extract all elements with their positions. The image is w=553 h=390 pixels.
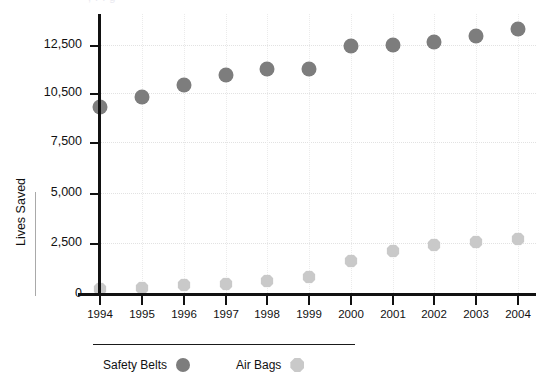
y-axis-tick-label: 7,500 <box>22 134 82 148</box>
x-axis-tick-mark <box>141 296 143 305</box>
data-point-air-bags <box>178 279 191 292</box>
x-axis-tick-label: 2003 <box>453 308 499 320</box>
x-axis-tick-label: 2002 <box>411 308 457 320</box>
x-axis-tick-label: 1997 <box>203 308 249 320</box>
y-axis-tick-label: 2,500 <box>22 235 82 249</box>
legend-label-air-bags: Air Bags <box>236 358 281 372</box>
lives-saved-scatter-chart: , . . g 02,5005,0007,50010,50012,500 199… <box>0 0 553 390</box>
y-axis-title: Lives Saved <box>14 164 28 260</box>
data-point-air-bags <box>261 275 274 288</box>
x-axis-line <box>78 293 536 296</box>
legend-divider <box>93 344 355 345</box>
y-axis-tick-label: 12,500 <box>22 37 82 51</box>
x-axis-tick-mark <box>99 296 101 305</box>
cut-off-title: , . . g <box>88 0 288 3</box>
x-axis-tick-label: 2004 <box>495 308 541 320</box>
gridline-horizontal <box>100 142 536 144</box>
y-axis-tick-label: 0 <box>22 286 82 300</box>
gridline-vertical <box>184 14 186 295</box>
y-axis-tick-mark <box>90 294 99 296</box>
data-point-air-bags <box>345 255 358 268</box>
data-point-safety-belts <box>260 62 275 77</box>
x-axis-tick-mark <box>475 296 477 305</box>
data-point-air-bags <box>428 239 441 252</box>
gridline-vertical <box>351 14 353 295</box>
gridline-vertical <box>142 14 144 295</box>
data-point-safety-belts <box>177 78 192 93</box>
gridline-vertical <box>476 14 478 295</box>
gridline-vertical <box>267 14 269 295</box>
y-axis-title-rule <box>35 192 36 296</box>
plot-area <box>100 14 536 295</box>
data-point-safety-belts <box>469 29 484 44</box>
data-point-air-bags <box>470 236 483 249</box>
gridline-horizontal <box>100 45 536 47</box>
gridline-vertical <box>226 14 228 295</box>
y-axis-tick-mark <box>90 45 99 47</box>
legend-item-air-bags[interactable]: Air Bags <box>236 356 304 374</box>
x-axis-tick-label: 1996 <box>161 308 207 320</box>
x-axis-tick-label: 1995 <box>119 308 165 320</box>
gridline-horizontal <box>100 193 536 195</box>
data-point-safety-belts <box>344 39 359 54</box>
x-axis-tick-mark <box>350 296 352 305</box>
x-axis-tick-label: 1998 <box>244 308 290 320</box>
x-axis-tick-label: 2000 <box>328 308 374 320</box>
data-point-air-bags <box>220 278 233 291</box>
data-point-air-bags <box>303 271 316 284</box>
x-axis-tick-mark <box>183 296 185 305</box>
x-axis-tick-mark <box>266 296 268 305</box>
x-axis-tick-mark <box>392 296 394 305</box>
y-axis-tick-mark <box>90 193 99 195</box>
legend: Safety Belts Air Bags <box>93 344 355 384</box>
y-axis-tick-label: 10,500 <box>22 85 82 99</box>
legend-item-safety-belts[interactable]: Safety Belts <box>103 356 190 374</box>
data-point-air-bags <box>512 233 525 246</box>
y-axis-line <box>98 14 101 296</box>
y-axis-tick-mark <box>90 142 99 144</box>
x-axis-tick-mark <box>308 296 310 305</box>
gridline-horizontal <box>100 93 536 95</box>
legend-swatch-circle-icon <box>176 358 190 372</box>
y-axis-tick-mark <box>90 93 99 95</box>
legend-swatch-octagon-icon <box>290 358 304 372</box>
data-point-air-bags <box>387 245 400 258</box>
y-axis-tick-label: 5,000 <box>22 185 82 199</box>
data-point-safety-belts <box>219 68 234 83</box>
x-axis-tick-label: 2001 <box>370 308 416 320</box>
data-point-safety-belts <box>135 90 150 105</box>
x-axis-tick-mark <box>517 296 519 305</box>
data-point-safety-belts <box>302 62 317 77</box>
y-axis-tick-mark <box>90 243 99 245</box>
x-axis-tick-label: 1999 <box>286 308 332 320</box>
legend-label-safety-belts: Safety Belts <box>103 358 167 372</box>
x-axis-tick-label: 1994 <box>77 308 123 320</box>
gridline-vertical <box>309 14 311 295</box>
gridline-vertical <box>434 14 436 295</box>
data-point-safety-belts <box>427 35 442 50</box>
data-point-safety-belts <box>386 38 401 53</box>
x-axis-tick-mark <box>225 296 227 305</box>
data-point-safety-belts <box>511 22 526 37</box>
x-axis-tick-mark <box>433 296 435 305</box>
gridline-vertical <box>518 14 520 295</box>
